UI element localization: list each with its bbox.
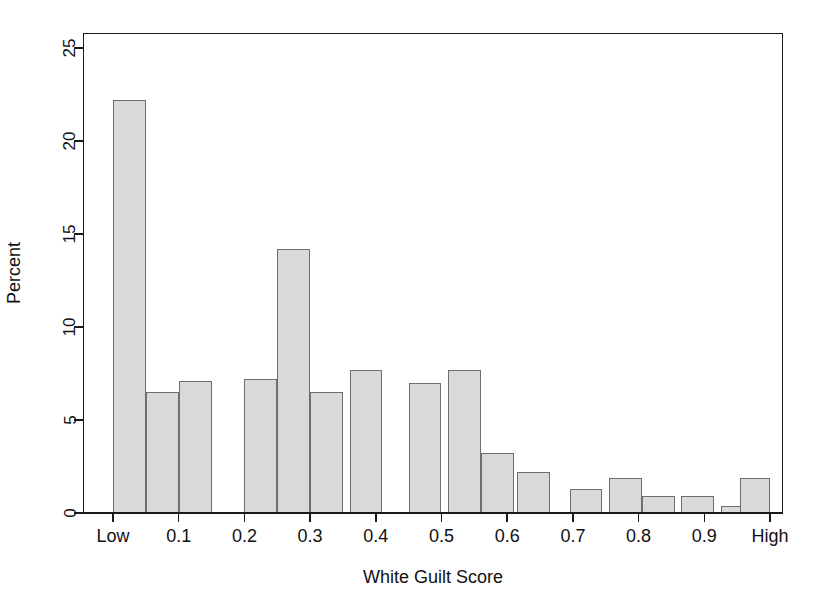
x-axis-tick: [441, 513, 443, 522]
x-axis-tick-label: 0.2: [232, 527, 257, 545]
x-axis-tick: [572, 513, 574, 522]
x-axis-tick: [704, 513, 706, 522]
histogram-bar: [681, 496, 714, 513]
histogram-bar: [609, 478, 642, 513]
histogram-bar: [146, 392, 179, 513]
histogram-bar: [244, 379, 277, 513]
x-axis-tick-label: 0.6: [495, 527, 520, 545]
x-axis-tick-label: High: [751, 527, 788, 545]
histogram-bar: [517, 472, 550, 513]
histogram-bar: [448, 370, 481, 513]
y-axis-tick-label: 25: [62, 38, 79, 57]
x-axis-tick: [112, 513, 114, 522]
histogram-bar: [570, 489, 603, 513]
y-axis-tick-label: 10: [62, 317, 79, 336]
histogram-figure: Percent 0510152025 White Guilt Score Low…: [0, 0, 819, 612]
x-axis-tick-label: 0.8: [626, 527, 651, 545]
x-axis-tick-label: 0.3: [298, 527, 323, 545]
x-axis-tick: [506, 513, 508, 522]
x-axis-tick: [244, 513, 246, 522]
bars-layer: [83, 33, 783, 513]
x-axis-tick: [769, 513, 771, 522]
x-axis-tick-label: 0.5: [429, 527, 454, 545]
histogram-bar: [642, 496, 675, 513]
x-axis-tick: [638, 513, 640, 522]
histogram-bar: [740, 478, 770, 513]
x-axis-tick-label: 0.4: [363, 527, 388, 545]
x-axis: White Guilt Score Low0.10.20.30.40.50.60…: [0, 513, 819, 612]
x-axis-title: White Guilt Score: [363, 567, 503, 588]
x-axis-tick-label: Low: [96, 527, 129, 545]
histogram-bar: [277, 249, 310, 513]
histogram-bar: [310, 392, 343, 513]
y-axis-title: Percent: [4, 242, 25, 304]
histogram-bar: [481, 453, 514, 513]
histogram-bar: [350, 370, 383, 513]
histogram-bar: [409, 383, 442, 513]
y-axis-tick-label: 15: [62, 224, 79, 243]
histogram-bar: [113, 100, 146, 513]
y-axis-tick-label: 5: [62, 415, 79, 424]
x-axis-tick: [178, 513, 180, 522]
x-axis-tick-label: 0.7: [560, 527, 585, 545]
x-axis-tick: [309, 513, 311, 522]
x-axis-tick-label: 0.9: [692, 527, 717, 545]
histogram-bar: [179, 381, 212, 513]
x-axis-tick-label: 0.1: [166, 527, 191, 545]
y-axis-tick-label: 20: [62, 131, 79, 150]
x-axis-tick: [375, 513, 377, 522]
